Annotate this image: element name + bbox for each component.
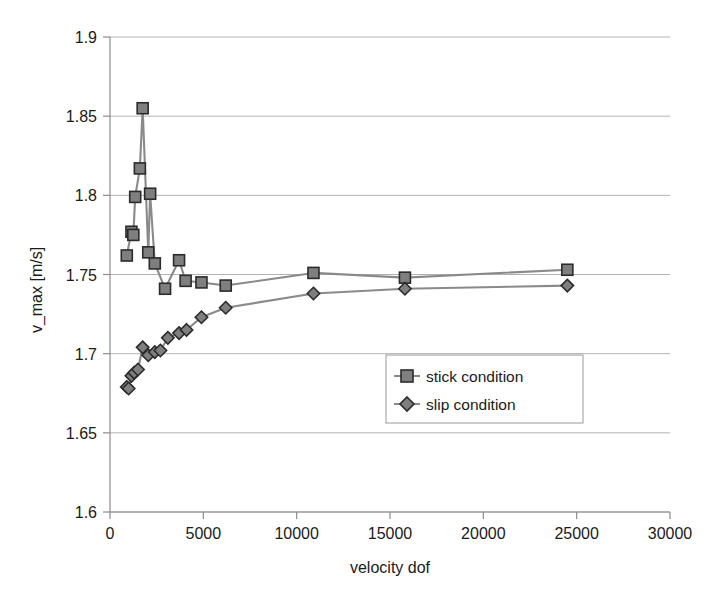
x-tick-label: 0 <box>106 525 115 542</box>
x-tick-label: 30000 <box>648 525 693 542</box>
chart-legend: stick conditionslip condition <box>386 355 583 423</box>
data-point-diamond <box>220 302 232 314</box>
y-tick-label: 1.85 <box>66 108 97 125</box>
data-point-square <box>134 163 145 174</box>
data-point-square <box>220 280 231 291</box>
chart-canvas: 050001000015000200002500030000 1.61.651.… <box>0 0 717 604</box>
gridline-group <box>110 37 670 512</box>
x-tickmark-group <box>110 512 670 519</box>
y-tick-label: 1.65 <box>66 425 97 442</box>
x-tick-label: 15000 <box>368 525 413 542</box>
x-tick-label-group: 050001000015000200002500030000 <box>106 525 693 542</box>
data-point-square <box>308 267 319 278</box>
y-tick-label: 1.7 <box>75 346 97 363</box>
y-tick-label: 1.8 <box>75 187 97 204</box>
data-point-square <box>143 247 154 258</box>
series-marker-group <box>121 103 574 395</box>
x-tick-label: 5000 <box>186 525 222 542</box>
legend-label-diamond: slip condition <box>426 396 516 413</box>
data-point-square <box>137 103 148 114</box>
x-tick-label: 10000 <box>274 525 319 542</box>
chart-figure: 050001000015000200002500030000 1.61.651.… <box>0 0 717 604</box>
data-point-diamond <box>399 283 411 295</box>
data-point-square <box>130 191 141 202</box>
y-tick-label-group: 1.61.651.71.751.81.851.9 <box>66 29 97 521</box>
y-tickmark-group <box>103 37 110 512</box>
y-axis-title: v_max [m/s] <box>28 247 46 333</box>
y-tick-label: 1.75 <box>66 267 97 284</box>
data-point-square <box>149 258 160 269</box>
data-point-square <box>128 229 139 240</box>
legend-label-square: stick condition <box>426 368 523 385</box>
data-point-diamond <box>561 279 573 291</box>
series-line-stick <box>127 108 568 289</box>
data-point-square <box>196 277 207 288</box>
data-point-square <box>174 255 185 266</box>
data-point-square <box>160 283 171 294</box>
series-line-group <box>127 108 568 388</box>
x-tick-label: 25000 <box>554 525 599 542</box>
data-point-diamond <box>307 287 319 299</box>
legend-marker-square <box>401 370 413 382</box>
x-tick-label: 20000 <box>461 525 506 542</box>
data-point-square <box>180 275 191 286</box>
data-point-square <box>562 264 573 275</box>
data-point-square <box>121 250 132 261</box>
y-tick-label: 1.9 <box>75 29 97 46</box>
x-axis-title: velocity dof <box>350 559 431 576</box>
data-point-square <box>145 188 156 199</box>
y-tick-label: 1.6 <box>75 504 97 521</box>
